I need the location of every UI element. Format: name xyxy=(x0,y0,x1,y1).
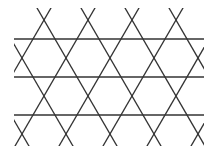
diagonal-line-down xyxy=(0,0,2,153)
lattice-lines xyxy=(0,0,215,153)
lattice-diagram xyxy=(0,0,215,153)
lattice-svg xyxy=(0,0,215,153)
